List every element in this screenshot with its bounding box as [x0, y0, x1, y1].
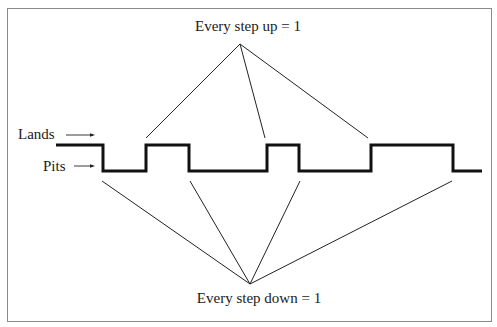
leader-line-down-4: [250, 181, 452, 284]
step-down-leader-lines: [102, 181, 452, 284]
step-up-label: Every step up = 1: [195, 18, 301, 34]
leader-line-up-1: [146, 44, 240, 138]
pits-lands-signal: [56, 145, 482, 171]
lands-label: Lands: [18, 126, 55, 142]
pits-lands-diagram: Every step up = 1 Lands Pits Every step …: [0, 0, 497, 327]
leader-line-up-3: [240, 44, 368, 138]
pits-label: Pits: [43, 158, 66, 174]
leader-line-down-3: [250, 181, 300, 284]
diagram-frame: [8, 9, 492, 322]
pits-arrow-icon: [74, 164, 95, 167]
leader-line-up-2: [240, 44, 265, 138]
lands-arrow-icon: [66, 133, 95, 136]
step-down-label: Every step down = 1: [197, 290, 321, 306]
leader-line-down-2: [190, 181, 250, 284]
leader-line-down-1: [102, 181, 250, 284]
step-up-leader-lines: [146, 44, 368, 138]
